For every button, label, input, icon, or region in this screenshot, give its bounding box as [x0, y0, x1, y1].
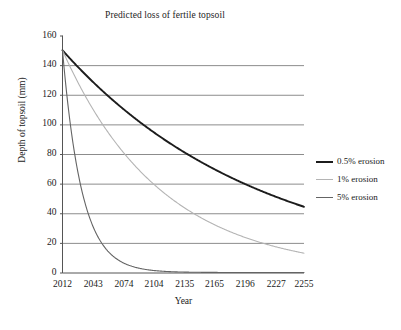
gridlines [63, 66, 305, 244]
legend-line-icon [316, 158, 333, 164]
y-axis-tick-label: 20 [31, 237, 57, 247]
y-axis-tick-label: 100 [31, 118, 57, 128]
legend-item[interactable]: 5% erosion [316, 188, 401, 206]
y-axis-tick-label: 60 [31, 178, 57, 188]
x-axis-tick-label: 2074 [109, 279, 139, 289]
y-axis-tick-label: 80 [31, 148, 57, 158]
x-axis-tick-label: 2196 [230, 279, 260, 289]
data-curves [63, 50, 305, 272]
legend-line-icon [316, 194, 333, 200]
legend-item[interactable]: 1% erosion [316, 170, 401, 188]
chart-figure: Predicted loss of fertile topsoil 020406… [0, 0, 401, 330]
legend-item-label: 5% erosion [337, 192, 378, 202]
series-line-3 [63, 50, 305, 272]
x-axis-title: Year [62, 296, 305, 306]
legend-item-label: 1% erosion [337, 174, 378, 184]
legend-line-icon [316, 176, 333, 182]
y-axis-tick-label: 120 [31, 89, 57, 99]
series-line-1 [63, 50, 305, 206]
x-axis-tick-label: 2255 [289, 279, 319, 289]
x-axis-tick-label: 2104 [139, 279, 169, 289]
x-axis-tick-label: 2165 [200, 279, 230, 289]
chart-legend: 0.5% erosion1% erosion5% erosion [316, 152, 401, 206]
x-axis-tick-label: 2135 [170, 279, 200, 289]
legend-item[interactable]: 0.5% erosion [316, 152, 401, 170]
x-axis-tick-label: 2012 [48, 279, 78, 289]
y-axis-tick-label: 40 [31, 207, 57, 217]
y-axis-tick-label: 0 [31, 267, 57, 277]
y-axis-title: Depth of topsoil (mm) [17, 60, 27, 180]
y-axis-tick-label: 140 [31, 59, 57, 69]
legend-item-label: 0.5% erosion [337, 156, 385, 166]
x-axis-tick-label: 2227 [261, 279, 291, 289]
x-axis-tick-label: 2043 [78, 279, 108, 289]
y-axis-tick-label: 160 [31, 30, 57, 40]
